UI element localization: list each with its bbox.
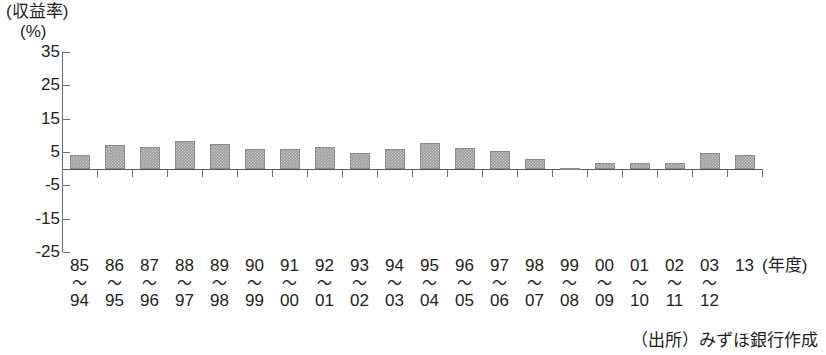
- y-tick-label: 35: [41, 43, 60, 60]
- x-tick-label-tilde: ～: [620, 275, 660, 291]
- y-tick-label: -5: [45, 176, 60, 193]
- x-tick-mark: [272, 169, 273, 177]
- x-tick-label-from: 87: [130, 256, 170, 275]
- x-tick-mark: [167, 169, 168, 177]
- x-tick-label-from: 90: [235, 256, 275, 275]
- x-tick-label-from: 89: [200, 256, 240, 275]
- bar: [280, 149, 300, 169]
- bar-series: [62, 52, 762, 252]
- x-tick-mark: [342, 169, 343, 177]
- x-tick-mark: [657, 169, 658, 177]
- x-tick-label-from: 00: [585, 256, 625, 275]
- x-tick-label-tilde: ～: [690, 275, 730, 291]
- x-tick-mark: [237, 169, 238, 177]
- x-tick-label-from: 02: [655, 256, 695, 275]
- x-tick-label-tilde: ～: [60, 275, 100, 291]
- x-tick-label-from: 93: [340, 256, 380, 275]
- bar: [140, 147, 160, 169]
- x-tick-label: 89～98: [200, 256, 240, 310]
- y-tick-label: 15: [41, 110, 60, 127]
- x-tick-label-tilde: ～: [445, 275, 485, 291]
- y-tick-label: 25: [41, 76, 60, 93]
- bar: [315, 147, 335, 168]
- x-tick-mark: [97, 169, 98, 177]
- x-tick-label-from: 86: [95, 256, 135, 275]
- x-tick-label-from: 94: [375, 256, 415, 275]
- x-tick-label-to: 94: [60, 291, 100, 310]
- x-tick-label-from: 88: [165, 256, 205, 275]
- plot-area: [62, 52, 762, 252]
- x-tick-label-group: 85～9486～9587～9688～9789～9890～9991～0092～01…: [62, 256, 762, 326]
- x-tick-mark: [587, 169, 588, 177]
- x-tick-label-tilde: ～: [305, 275, 345, 291]
- x-tick-label-to: 00: [270, 291, 310, 310]
- bar: [210, 144, 230, 169]
- bar: [525, 159, 545, 169]
- x-tick-label-from: 01: [620, 256, 660, 275]
- x-tick-label-to: 07: [515, 291, 555, 310]
- bar: [630, 163, 650, 168]
- x-tick-label-to: 96: [130, 291, 170, 310]
- x-tick-label-to: 06: [480, 291, 520, 310]
- x-tick-label: 88～97: [165, 256, 205, 310]
- x-tick-label-from: 85: [60, 256, 100, 275]
- x-tick-label-to: 99: [235, 291, 275, 310]
- x-tick-label: 94～03: [375, 256, 415, 310]
- x-tick-label-to: 98: [200, 291, 240, 310]
- x-tick-label: 98～07: [515, 256, 555, 310]
- x-tick-label: 03～12: [690, 256, 730, 310]
- x-tick-label: 91～00: [270, 256, 310, 310]
- x-tick-label-to: 97: [165, 291, 205, 310]
- y-tick-label: -25: [35, 243, 60, 260]
- x-tick-label-to: 03: [375, 291, 415, 310]
- bar: [175, 141, 195, 168]
- x-tick-label-tilde: ～: [165, 275, 205, 291]
- x-tick-label-tilde: ～: [480, 275, 520, 291]
- x-tick-label-from: 98: [515, 256, 555, 275]
- x-tick-label-from: 97: [480, 256, 520, 275]
- y-tick-mark: [63, 252, 70, 253]
- y-axis-title-line1: (収益率): [6, 2, 68, 21]
- bar: [350, 153, 370, 168]
- x-tick-label-from: 13: [725, 256, 765, 275]
- bar: [455, 148, 475, 169]
- x-tick-label-tilde: ～: [130, 275, 170, 291]
- x-tick-label: 86～95: [95, 256, 135, 310]
- x-tick-label-from: 95: [410, 256, 450, 275]
- x-tick-mark: [692, 169, 693, 177]
- x-tick-label-tilde: ～: [235, 275, 275, 291]
- x-tick-label-tilde: [725, 275, 765, 291]
- x-tick-label-tilde: ～: [550, 275, 590, 291]
- bar: [665, 163, 685, 169]
- x-tick-label: 00～09: [585, 256, 625, 310]
- x-tick-label-to: 11: [655, 291, 695, 310]
- x-tick-label-to: 09: [585, 291, 625, 310]
- bar: [385, 149, 405, 169]
- x-tick-label: 96～05: [445, 256, 485, 310]
- x-tick-label: 95～04: [410, 256, 450, 310]
- x-tick-label-tilde: ～: [655, 275, 695, 291]
- x-tick-label-tilde: ～: [340, 275, 380, 291]
- x-tick-label: 93～02: [340, 256, 380, 310]
- x-tick-label: 01～10: [620, 256, 660, 310]
- x-tick-label-tilde: ～: [410, 275, 450, 291]
- x-tick-label-to: 95: [95, 291, 135, 310]
- x-tick-mark: [412, 169, 413, 177]
- source-note: （出所）みずほ銀行作成: [631, 331, 818, 351]
- y-axis-title: (収益率) (%): [6, 2, 68, 42]
- x-tick-label: 13: [725, 256, 765, 291]
- x-tick-label-to: 02: [340, 291, 380, 310]
- bar: [105, 145, 125, 168]
- x-tick-mark: [622, 169, 623, 177]
- x-tick-mark: [517, 169, 518, 177]
- x-tick-mark: [552, 169, 553, 177]
- chart-figure: (収益率) (%) 3525155-5-15-25 85～9486～9587～9…: [0, 0, 826, 355]
- bar: [70, 155, 90, 168]
- bar: [700, 153, 720, 168]
- x-tick-label-from: 91: [270, 256, 310, 275]
- y-tick-label: -15: [35, 210, 60, 227]
- x-tick-mark: [482, 169, 483, 177]
- x-tick-label-tilde: ～: [585, 275, 625, 291]
- x-tick-label-from: 92: [305, 256, 345, 275]
- x-tick-mark: [132, 169, 133, 177]
